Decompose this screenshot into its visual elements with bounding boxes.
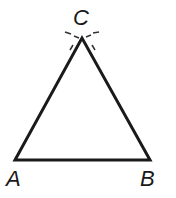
triangle-diagram: C A B: [0, 0, 176, 198]
vertex-label-b: B: [140, 166, 155, 191]
vertex-label-a: A: [4, 166, 21, 191]
vertex-label-c: C: [73, 5, 89, 30]
triangle-abc: [15, 38, 150, 160]
